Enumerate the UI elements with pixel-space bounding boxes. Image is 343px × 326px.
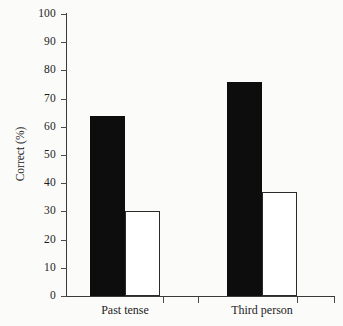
y-tick-label: 100 [16,8,56,20]
y-tick-label: 10 [16,262,56,274]
y-tick-label: 80 [16,64,56,76]
y-tick-label: 60 [16,121,56,133]
y-tick-label: 50 [16,149,56,161]
y-tick-label: 30 [16,205,56,217]
bar-chart-figure: Correct (%) 1009080706050403020100 Past … [0,0,343,326]
x-category-label: Past tense [65,303,185,318]
y-tick-label: 20 [16,234,56,246]
y-tick-label: 90 [16,36,56,48]
y-tick-label: 40 [16,177,56,189]
x-axis-line [66,296,335,297]
y-tick-label: 70 [16,93,56,105]
x-tick-mark [334,297,335,303]
bar-filled-bar-third-person [227,82,262,296]
plot-area [67,14,335,296]
x-tick-mark [198,297,199,303]
bar-filled-bar-past-tense [90,116,125,296]
bar-open-bar-past-tense [125,211,160,296]
bar-open-bar-third-person [262,192,297,296]
y-tick-label: 0 [16,290,56,302]
y-tick-mark [61,296,67,297]
x-category-label: Third person [202,303,322,318]
